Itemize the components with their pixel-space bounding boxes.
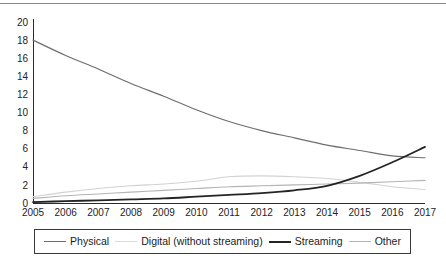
legend-label-digital: Digital (without streaming): [141, 236, 262, 247]
series-group: [33, 40, 425, 202]
page-top-rule: [0, 3, 446, 4]
x-axis-tick-labels: 2005200620072008200920102011201220132014…: [22, 207, 437, 218]
x-tick-label: 2007: [87, 207, 110, 218]
series-line-physical: [33, 40, 425, 158]
x-tick-label: 2015: [349, 207, 372, 218]
legend-item-physical[interactable]: Physical: [44, 236, 109, 247]
legend-item-streaming[interactable]: Streaming: [269, 236, 343, 247]
y-tick-label: 12: [17, 89, 29, 100]
y-tick-label: 2: [22, 180, 28, 191]
legend-swatch-physical: [44, 241, 66, 242]
y-tick-label: 20: [17, 17, 29, 28]
x-tick-label: 2012: [251, 207, 274, 218]
legend-label-physical: Physical: [70, 236, 109, 247]
plot-area: 02468101214161820 2005200620072008200920…: [0, 6, 446, 222]
y-tick-label: 16: [17, 53, 29, 64]
y-tick-label: 6: [22, 143, 28, 154]
x-tick-label: 2011: [218, 207, 240, 218]
x-tick-label: 2009: [153, 207, 176, 218]
legend-item-other[interactable]: Other: [349, 236, 401, 247]
line-chart: 02468101214161820 2005200620072008200920…: [0, 6, 446, 222]
x-tick-label: 2016: [381, 207, 404, 218]
y-tick-label: 18: [17, 35, 29, 46]
x-tick-label: 2014: [316, 207, 339, 218]
y-tick-label: 4: [22, 161, 28, 172]
x-tick-label: 2006: [55, 207, 78, 218]
legend-swatch-streaming: [269, 241, 291, 243]
legend-label-streaming: Streaming: [295, 236, 343, 247]
legend-item-digital[interactable]: Digital (without streaming): [115, 236, 262, 247]
axis-lines: [33, 19, 425, 203]
y-axis-tick-labels: 02468101214161820: [17, 17, 29, 209]
x-tick-label: 2008: [120, 207, 143, 218]
y-tick-label: 10: [17, 107, 29, 118]
legend-swatch-digital: [115, 241, 137, 242]
chart-legend: Physical Digital (without streaming) Str…: [34, 229, 411, 254]
legend-label-other: Other: [375, 236, 401, 247]
x-tick-label: 2005: [22, 207, 45, 218]
x-tick-label: 2010: [185, 207, 208, 218]
x-tick-label: 2013: [283, 207, 306, 218]
y-tick-label: 14: [17, 71, 29, 82]
legend-swatch-other: [349, 241, 371, 242]
x-tick-label: 2017: [414, 207, 437, 218]
y-tick-label: 8: [22, 125, 28, 136]
figure: 02468101214161820 2005200620072008200920…: [0, 0, 446, 261]
